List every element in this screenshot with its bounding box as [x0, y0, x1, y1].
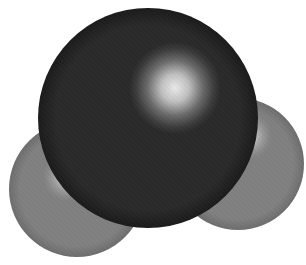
molecule-figure: Water H2O	[0, 0, 306, 265]
space-filling-molecule-canvas	[0, 0, 306, 265]
